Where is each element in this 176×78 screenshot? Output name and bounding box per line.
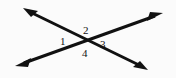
angle-diagram: 1 2 3 4 bbox=[0, 0, 176, 78]
line-lower-left-to-upper-right bbox=[15, 12, 163, 67]
line-upper-left-to-lower-right bbox=[23, 8, 148, 70]
angle-label-2: 2 bbox=[83, 25, 89, 36]
angle-label-3: 3 bbox=[100, 39, 106, 50]
angle-label-4: 4 bbox=[82, 48, 88, 59]
angle-label-1: 1 bbox=[60, 36, 66, 47]
arrowhead-upper-right-icon bbox=[147, 12, 163, 21]
intersecting-lines-svg bbox=[0, 0, 176, 78]
line-b-shaft bbox=[24, 16, 155, 63]
arrowhead-lower-left-icon bbox=[15, 58, 31, 67]
